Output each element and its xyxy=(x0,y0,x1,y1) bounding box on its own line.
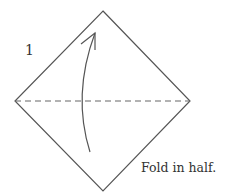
arrowhead-icon xyxy=(81,33,95,50)
step-number: 1 xyxy=(25,42,34,58)
origami-diagram: 1 Fold in half. xyxy=(0,0,233,194)
instruction-text: Fold in half. xyxy=(141,160,216,175)
fold-arrow-icon xyxy=(82,33,95,152)
